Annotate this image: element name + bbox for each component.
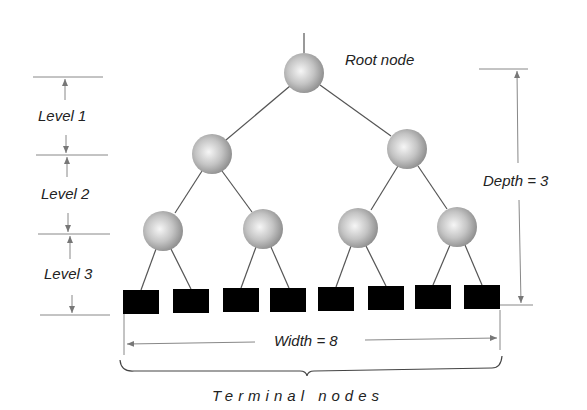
terminal-node	[270, 288, 306, 312]
node-level1-left	[192, 134, 232, 174]
terminal-nodes-label: Terminal nodes	[212, 388, 384, 403]
level-2-label: Level 2	[41, 186, 89, 201]
terminal-nodes	[123, 285, 500, 314]
root-node-label: Root node	[345, 52, 414, 67]
terminal-node	[173, 289, 209, 313]
width-label: Width = 8	[274, 333, 338, 348]
level-3-label: Level 3	[44, 266, 92, 281]
internal-nodes	[143, 53, 477, 251]
root-node	[284, 53, 324, 93]
terminal-brace	[120, 356, 502, 376]
node-level2-b	[243, 209, 283, 249]
terminal-node	[123, 290, 159, 314]
terminal-node	[415, 285, 451, 309]
terminal-node	[368, 286, 404, 310]
node-level1-right	[387, 129, 427, 169]
terminal-node	[223, 288, 259, 312]
level-1-label: Level 1	[38, 108, 86, 123]
node-level2-d	[437, 207, 477, 247]
node-level2-c	[338, 208, 378, 248]
depth-label: Depth = 3	[483, 173, 548, 188]
terminal-node	[318, 287, 354, 311]
terminal-node	[464, 285, 500, 309]
node-level2-a	[143, 211, 183, 251]
